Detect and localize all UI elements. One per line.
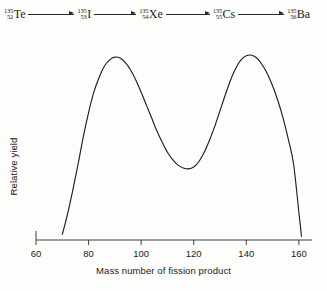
decay-chain: 135 52 Te 135 53 I 135 54 Xe <box>0 0 327 28</box>
y-axis-label: Relative yield <box>6 106 22 226</box>
x-axis-tick-label: 100 <box>128 248 154 259</box>
y-axis-label-text: Relative yield <box>9 137 20 195</box>
nuclide-te-symbol: Te <box>14 8 26 20</box>
axis-group <box>36 231 312 245</box>
arrow-head <box>279 11 284 15</box>
arrow-head <box>205 11 210 15</box>
nuclide-cs-numbers: 135 55 <box>213 8 222 20</box>
x-axis-tick-label: 120 <box>181 248 207 259</box>
nuclide-i-atomic-number: 53 <box>81 14 87 20</box>
nuclide-xe-atomic-number: 54 <box>142 14 148 20</box>
x-axis-tick-label: 60 <box>23 248 49 259</box>
nuclide-i: 135 53 I <box>77 8 91 20</box>
nuclide-xe-symbol: Xe <box>149 8 163 20</box>
arrow-head <box>69 11 74 15</box>
arrow-shaft <box>166 14 210 15</box>
x-axis-tick-label: 80 <box>76 248 102 259</box>
nuclide-ba-symbol: Ba <box>297 8 310 20</box>
page-canvas: 135 52 Te 135 53 I 135 54 Xe <box>0 0 327 291</box>
right-arrow-icon <box>28 11 74 18</box>
fission-yield-chart: Relative yield 6080100120140160 Mass num… <box>0 28 327 291</box>
x-axis-ticks <box>36 240 299 245</box>
right-arrow-icon <box>166 11 210 18</box>
nuclide-ba-numbers: 135 56 <box>287 8 296 20</box>
plot-area <box>0 28 327 291</box>
nuclide-xe: 135 54 Xe <box>139 8 163 20</box>
x-axis-tick-label: 140 <box>233 248 259 259</box>
arrow-head <box>131 11 136 15</box>
x-axis-tick-label: 160 <box>286 248 312 259</box>
nuclide-xe-numbers: 135 54 <box>139 8 148 20</box>
nuclide-cs-symbol: Cs <box>222 8 235 20</box>
nuclide-ba-atomic-number: 56 <box>290 14 296 20</box>
fission-yield-curve <box>62 55 301 236</box>
nuclide-cs-atomic-number: 55 <box>216 14 222 20</box>
arrow-shaft <box>238 14 284 15</box>
x-axis-label: Mass number of fission product <box>0 265 327 276</box>
nuclide-ba: 135 56 Ba <box>287 8 310 20</box>
right-arrow-icon <box>94 11 136 18</box>
arrow-shaft <box>94 14 136 15</box>
nuclide-te-atomic-number: 52 <box>7 14 13 20</box>
arrow-shaft <box>28 14 74 15</box>
nuclide-cs: 135 55 Cs <box>213 8 235 20</box>
nuclide-te-numbers: 135 52 <box>4 8 13 20</box>
nuclide-i-symbol: I <box>87 8 91 20</box>
nuclide-i-numbers: 135 53 <box>77 8 86 20</box>
right-arrow-icon <box>238 11 284 18</box>
nuclide-te: 135 52 Te <box>4 8 25 20</box>
